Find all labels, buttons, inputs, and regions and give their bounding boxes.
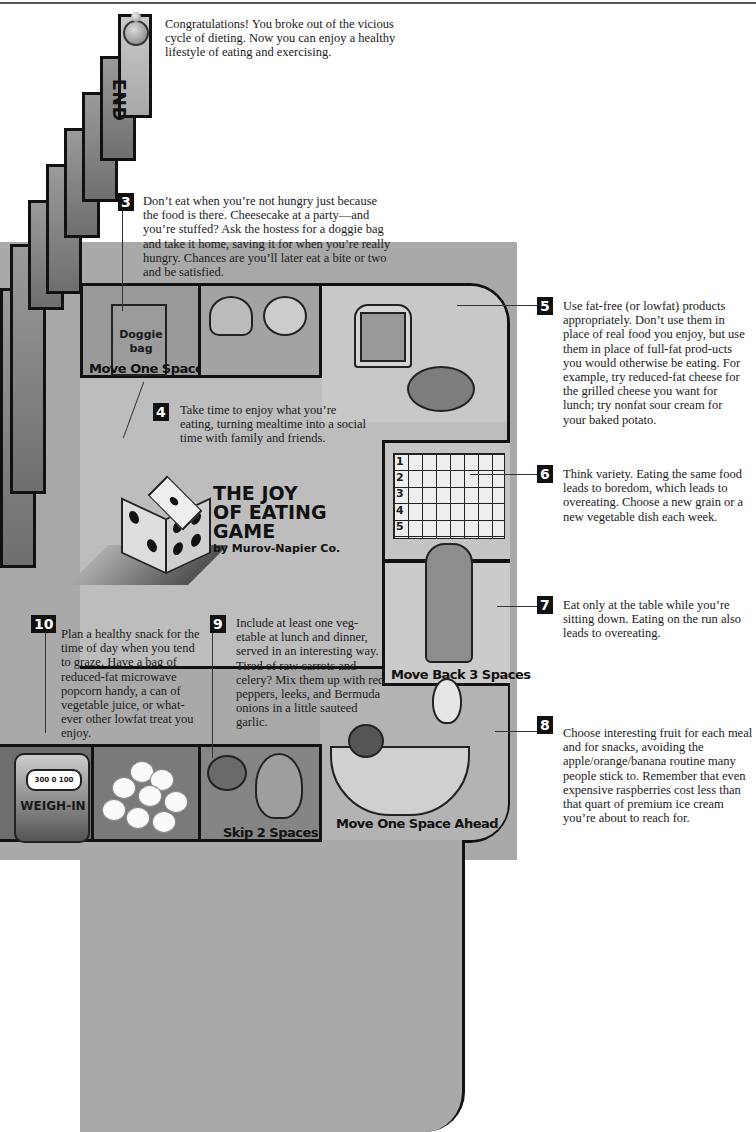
tip-10-text: Plan a healthy snack for the time of day… — [61, 627, 201, 741]
leader-line — [497, 606, 539, 607]
grid-row: 5 — [396, 520, 404, 533]
tip-8-text: Choose interesting fruit for each meal a… — [563, 726, 753, 825]
space-weigh-in: 300 0 100 WEIGH-IN — [0, 744, 94, 842]
tip-badge-6: 6 — [537, 465, 553, 483]
tip-badge-9: 9 — [210, 615, 226, 633]
tip-7-text: Eat only at the table while you’re sitti… — [563, 598, 753, 641]
space-label: Skip 2 Spaces — [223, 825, 318, 840]
doggie-bag-text: Doggie bag — [119, 328, 163, 356]
fruit-bowl-illustration — [330, 746, 470, 816]
grid-row: 2 — [396, 471, 404, 484]
dice-pip — [129, 509, 139, 526]
tip-badge-10: 10 — [31, 615, 56, 633]
tip-badge-7: 7 — [537, 596, 553, 614]
dice-pip — [173, 540, 183, 557]
leader-line — [45, 633, 46, 733]
leader-line — [495, 731, 537, 732]
people-eating-illustration — [209, 296, 253, 336]
tip-badge-5: 5 — [537, 297, 553, 315]
tip-4-text: Take time to enjoy what you’re eating, t… — [180, 403, 370, 446]
space-label: Move Back 3 Spaces — [391, 667, 531, 682]
top-rule — [0, 2, 756, 4]
tip-badge-8: 8 — [537, 716, 553, 734]
tip-3-text: Don’t eat when you’re not hungry just be… — [143, 194, 393, 279]
leader-line — [122, 211, 123, 311]
end-text: Congratulations! You broke out of the vi… — [165, 17, 415, 60]
space-social-meal — [198, 283, 322, 378]
game-pawn — [123, 20, 149, 46]
dice-pip — [168, 495, 180, 507]
scale-icon: 300 0 100 WEIGH-IN — [14, 753, 90, 843]
dice-pip — [191, 532, 201, 549]
food-grid: 1 2 3 4 5 — [393, 453, 505, 539]
leek-illustration — [255, 753, 303, 819]
game-title: THE JOY OF EATING GAME by Murov-Napier C… — [213, 484, 340, 557]
runner-illustration — [425, 543, 473, 663]
tip-9-text: Include at least one veg-etable at lunch… — [236, 616, 386, 730]
tip-badge-3: 3 — [118, 193, 134, 211]
dice-pip — [147, 537, 157, 554]
space-fat-free — [322, 286, 507, 422]
end-label: END — [109, 79, 129, 122]
tip-5-text: Use fat-free (or lowfat) products approp… — [563, 299, 748, 427]
space-vegetables: Skip 2 Spaces — [198, 744, 322, 842]
grid-row: 1 — [396, 455, 404, 468]
broccoli-illustration — [207, 755, 247, 791]
popcorn-icon — [112, 777, 136, 799]
popcorn-icon — [138, 785, 162, 807]
potato-illustration — [407, 366, 475, 412]
popcorn-icon — [126, 807, 150, 829]
space-label: Move One Space Ahead — [336, 816, 498, 831]
tip-6-text: Think variety. Eating the same food lead… — [563, 467, 753, 524]
popcorn-icon — [152, 811, 176, 833]
pear-illustration — [432, 678, 462, 724]
grid-row: 4 — [396, 504, 404, 517]
space-popcorn — [91, 744, 201, 842]
cheese-slice — [360, 312, 406, 362]
popcorn-icon — [164, 791, 188, 813]
space-label: Move One Space — [89, 361, 203, 376]
friend-illustration — [263, 296, 307, 336]
leader-line — [470, 474, 538, 475]
scale-dial: 300 0 100 — [26, 769, 82, 791]
grid-row: 3 — [396, 487, 404, 500]
leader-line — [457, 305, 537, 306]
space-runner: Move Back 3 Spaces — [382, 560, 510, 686]
publisher-byline: by Murov-Napier Co. — [213, 541, 340, 557]
title-line: GAME — [213, 522, 340, 541]
game-pawn-head — [131, 12, 141, 22]
tip-badge-4: 4 — [153, 403, 169, 421]
weigh-in-label: WEIGH-IN — [20, 799, 86, 813]
popcorn-icon — [102, 799, 126, 821]
leader-line — [212, 633, 213, 758]
space-doggie-bag: Doggie bag Move One Space — [80, 283, 201, 378]
